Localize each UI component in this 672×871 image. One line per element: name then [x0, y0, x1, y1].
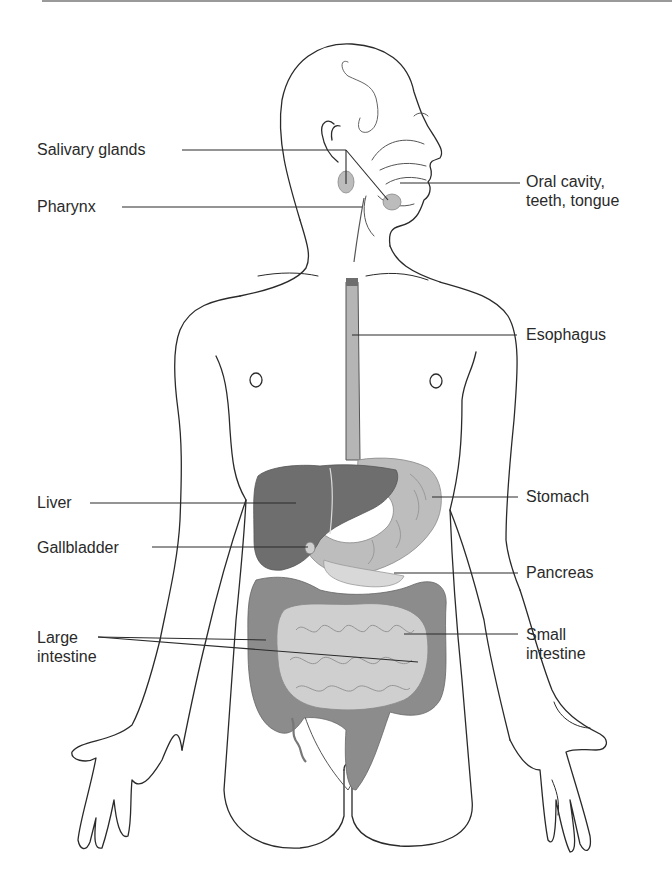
label-large-intestine-line2: intestine — [37, 647, 97, 666]
label-pharynx: Pharynx — [37, 197, 96, 216]
label-oral-cavity: Oral cavity, teeth, tongue — [526, 172, 619, 210]
label-large-intestine: Large intestine — [37, 628, 97, 666]
left-shoulder — [160, 296, 240, 640]
salivary-gland-submandibular — [383, 194, 401, 210]
label-esophagus: Esophagus — [526, 325, 606, 344]
esophagus-shape — [346, 282, 360, 460]
label-oral-cavity-line1: Oral cavity, — [526, 172, 619, 191]
digestive-system-illustration — [0, 0, 672, 871]
label-small-intestine: Small intestine — [526, 625, 586, 663]
label-large-intestine-line1: Large — [37, 628, 97, 647]
label-salivary-glands: Salivary glands — [37, 140, 146, 159]
gallbladder-shape — [305, 542, 315, 554]
label-small-intestine-line2: intestine — [526, 644, 586, 663]
label-oral-cavity-line2: teeth, tongue — [526, 191, 619, 210]
neck-back — [240, 220, 308, 296]
label-gallbladder: Gallbladder — [37, 538, 119, 557]
label-pancreas: Pancreas — [526, 563, 594, 582]
label-stomach: Stomach — [526, 487, 589, 506]
label-small-intestine-line1: Small — [526, 625, 586, 644]
label-liver: Liver — [37, 493, 72, 512]
ear — [322, 121, 338, 162]
pharynx — [354, 198, 364, 262]
